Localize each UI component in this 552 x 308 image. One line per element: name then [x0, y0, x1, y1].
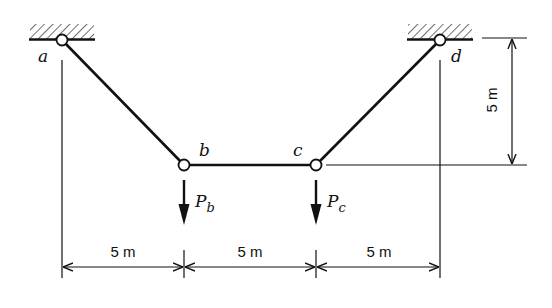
- pin-b: [179, 160, 190, 171]
- load-label-pc: Pc: [326, 191, 346, 215]
- node-label-a: a: [38, 46, 48, 66]
- load-arrow-pc: [311, 180, 322, 225]
- cable-diagram: a b c d Pb Pc 5 m 5 m 5 m 5 m: [0, 0, 552, 308]
- dim-label-span3: 5 m: [366, 243, 391, 260]
- load-arrow-pb: [179, 180, 190, 225]
- pin-joints: [57, 35, 446, 171]
- dim-label-height: 5 m: [483, 87, 500, 112]
- cable: [62, 40, 440, 165]
- dim-label-span1: 5 m: [110, 243, 135, 260]
- pin-d: [435, 35, 446, 46]
- pin-c: [311, 160, 322, 171]
- dim-label-span2: 5 m: [237, 243, 262, 260]
- node-label-d: d: [451, 46, 462, 66]
- pin-a: [57, 35, 68, 46]
- load-label-pb: Pb: [194, 191, 215, 215]
- node-label-b: b: [199, 140, 210, 160]
- node-label-c: c: [293, 140, 303, 160]
